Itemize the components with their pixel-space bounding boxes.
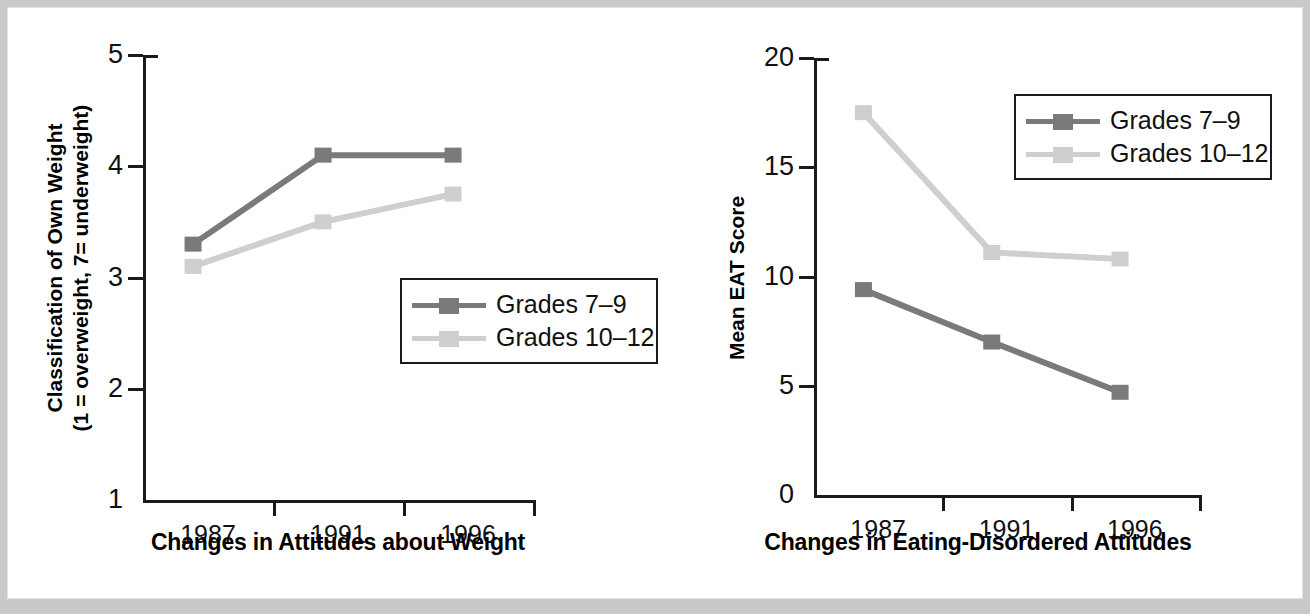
legend-label-grades-7-9: Grades 7–9 [1110,108,1241,133]
y-tick-label-4: 4 [51,152,123,179]
legend-square-marker-icon [439,331,459,347]
data-point-marker [983,335,1000,350]
data-point-marker [315,148,332,163]
legend-left: Grades 7–9 Grades 10–12 [400,278,658,364]
y-axis-top-cap [814,58,829,61]
legend-item-grades-10-12: Grades 10–12 [412,321,642,354]
chart-panel-eating-disordered-attitudes: Mean EAT Score 20151050198719911996 Chan… [658,8,1302,598]
x-tick-1 [273,500,276,516]
data-point-marker [315,214,332,229]
y-tick-label-2: 2 [51,375,123,402]
legend-label-grades-10-12: Grades 10–12 [496,325,654,350]
data-point-marker [855,282,872,297]
y-tick-label-15: 15 [722,153,794,180]
data-point-marker [445,148,462,163]
legend-item-grades-7-9: Grades 7–9 [1026,104,1256,137]
legend-label-grades-7-9: Grades 7–9 [496,292,627,317]
legend-square-marker-icon [439,298,459,314]
y-axis-top-cap [143,55,158,58]
y-tick-label-3: 3 [51,264,123,291]
legend-swatch-grades-10-12 [412,328,486,348]
y-tick-10 [799,276,814,279]
data-point-marker [983,245,1000,260]
x-axis-title-right: Changes in Eating-Disordered Attitudes [668,529,1288,556]
legend-swatch-grades-7-9 [1026,111,1100,131]
y-tick-label-0: 0 [722,481,794,508]
x-tick-2 [403,500,406,516]
x-tick-1 [942,495,945,511]
figure-frame: Classification of Own Weight (1 = overwe… [8,8,1302,598]
x-tick-2 [1071,495,1074,511]
y-tick-label-20: 20 [722,44,794,71]
y-tick-20 [799,57,814,60]
x-axis-title-left: Changes in Attitudes about Weight [48,529,628,556]
x-axis-right-cap [1199,495,1202,511]
data-point-marker [445,187,462,202]
legend-label-grades-10-12: Grades 10–12 [1110,141,1268,166]
data-point-marker [185,237,202,252]
legend-item-grades-10-12: Grades 10–12 [1026,137,1256,170]
y-tick-4 [128,165,143,168]
y-tick-15 [799,166,814,169]
data-point-marker [185,259,202,274]
y-tick-2 [128,388,143,391]
chart-panel-attitudes-about-weight: Classification of Own Weight (1 = overwe… [8,8,658,598]
data-point-marker [1112,252,1129,267]
y-tick-label-5: 5 [51,41,123,68]
y-tick-3 [128,277,143,280]
data-point-marker [1112,385,1129,400]
data-point-marker [855,105,872,120]
y-tick-5 [128,54,143,57]
legend-swatch-grades-7-9 [412,295,486,315]
legend-square-marker-icon [1053,147,1073,163]
legend-right: Grades 7–9 Grades 10–12 [1014,94,1272,180]
series-line-1 [193,194,453,266]
legend-square-marker-icon [1053,114,1073,130]
legend-swatch-grades-10-12 [1026,144,1100,164]
legend-item-grades-7-9: Grades 7–9 [412,288,642,321]
x-axis-right-cap [533,500,536,516]
y-tick-label-5: 5 [722,372,794,399]
y-tick-label-10: 10 [722,263,794,290]
y-tick-5 [799,385,814,388]
y-tick-label-1: 1 [51,486,123,513]
